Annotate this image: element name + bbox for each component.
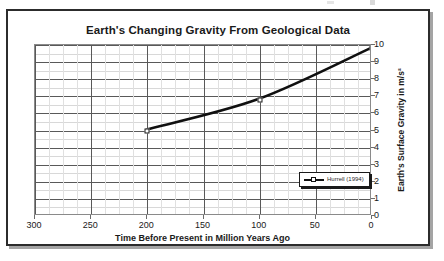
chart-title: Earth's Changing Gravity From Geological…	[8, 24, 428, 36]
y-axis-tick-mark	[371, 44, 375, 45]
series-line-hurrell-1994	[35, 45, 370, 214]
y-axis-tick-label: 9	[374, 56, 390, 66]
legend: Hurrell (1994)	[299, 172, 370, 187]
chart-panel: Earth's Changing Gravity From Geological…	[6, 9, 430, 246]
x-axis-tick-mark	[259, 215, 260, 219]
y-axis-tick-mark	[371, 95, 375, 96]
y-axis-tick-label: 0	[374, 210, 390, 220]
y-axis-tick-mark	[371, 198, 375, 199]
y-axis-tick-label: 5	[374, 125, 390, 135]
x-axis-tick-label: 50	[295, 220, 335, 230]
y-axis-tick-mark	[371, 78, 375, 79]
y-axis-tick-label: 7	[374, 90, 390, 100]
x-axis-tick-label: 0	[351, 220, 391, 230]
data-point-marker	[145, 128, 150, 133]
plot-area	[34, 44, 371, 215]
x-axis-tick-mark	[203, 215, 204, 219]
x-axis-title: Time Before Present in Million Years Ago	[34, 233, 371, 243]
y-axis-tick-mark	[371, 130, 375, 131]
figure-root: Earth's Changing Gravity From Geological…	[0, 0, 444, 261]
legend-entry-label: Hurrell (1994)	[327, 176, 364, 183]
y-axis-tick-mark	[371, 181, 375, 182]
x-axis-tick-label: 250	[70, 220, 110, 230]
y-axis-tick-label: 4	[374, 142, 390, 152]
y-axis-tick-label: 8	[374, 73, 390, 83]
y-axis-tick-label: 3	[374, 159, 390, 169]
x-axis-tick-label: 150	[183, 220, 223, 230]
x-axis-tick-label: 300	[14, 220, 54, 230]
y-axis-tick-label: 6	[374, 107, 390, 117]
y-axis-tick-label: 1	[374, 193, 390, 203]
y-axis-title-label: Earth's Surface Gravity in m/s²	[396, 68, 406, 191]
y-axis-tick-label: 2	[374, 176, 390, 186]
legend-marker-icon	[304, 176, 324, 183]
x-axis-tick-mark	[371, 215, 372, 219]
y-axis-tick-mark	[371, 147, 375, 148]
scan-artifact	[327, 1, 334, 4]
scan-artifact	[370, 0, 375, 5]
x-axis-tick-mark	[146, 215, 147, 219]
y-axis-title: Earth's Surface Gravity in m/s²	[394, 44, 408, 215]
data-point-marker	[257, 97, 262, 102]
x-axis-tick-label: 100	[239, 220, 279, 230]
x-axis-tick-label: 200	[126, 220, 166, 230]
x-axis-tick-mark	[90, 215, 91, 219]
data-point-marker	[370, 46, 372, 51]
x-axis-tick-mark	[34, 215, 35, 219]
y-axis-tick-label: 10	[374, 39, 390, 49]
y-axis-tick-mark	[371, 112, 375, 113]
y-axis-tick-mark	[371, 61, 375, 62]
x-axis-tick-mark	[315, 215, 316, 219]
y-axis-tick-mark	[371, 164, 375, 165]
